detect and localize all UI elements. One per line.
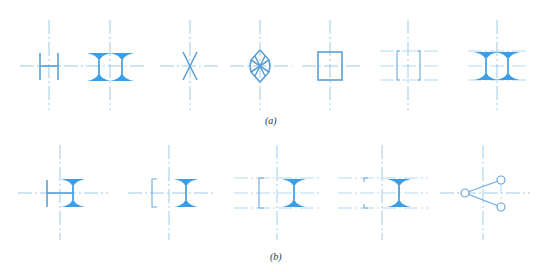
double-i-beam-with-guides-symbol bbox=[468, 20, 528, 110]
panel-b bbox=[18, 145, 530, 240]
bar-plus-i-beam-symbol bbox=[18, 145, 108, 240]
double-i-beam-symbol bbox=[87, 20, 134, 110]
diamond-lattice-symbol bbox=[230, 20, 292, 110]
bracket-box-symbol bbox=[380, 20, 440, 110]
figure-canvas bbox=[0, 0, 545, 272]
node-left bbox=[461, 189, 469, 197]
panel-a bbox=[20, 20, 528, 110]
bracket-plus-i-beam-symbol bbox=[128, 145, 215, 240]
double-bar-h-symbol bbox=[20, 20, 145, 110]
three-node-link-symbol bbox=[440, 145, 530, 240]
bracket-plus-i-beam-with-guides-symbol bbox=[234, 145, 322, 240]
caption-a: (a) bbox=[265, 115, 277, 126]
corner-marks-plus-i-beam-symbol bbox=[338, 145, 428, 240]
square-box-symbol bbox=[302, 20, 360, 110]
node-top bbox=[497, 176, 505, 184]
node-bottom bbox=[497, 203, 505, 211]
x-cross-symbol bbox=[160, 20, 220, 110]
caption-b: (b) bbox=[270, 251, 282, 262]
